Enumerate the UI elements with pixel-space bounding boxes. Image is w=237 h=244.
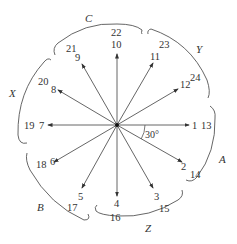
label-21: 21	[66, 43, 77, 54]
label-24: 24	[190, 72, 201, 83]
label-5: 5	[78, 191, 83, 202]
phasor-diagram: 30° A Z B X C Y 1 13 2 14 3 15 4 16 5 17…	[0, 0, 237, 244]
label-3: 3	[154, 191, 159, 202]
label-23: 23	[159, 39, 170, 50]
label-12: 12	[180, 79, 191, 90]
arrow-9	[82, 64, 117, 125]
group-label-a: A	[218, 153, 226, 165]
label-8: 8	[51, 84, 56, 95]
bracket-y	[148, 29, 209, 98]
group-label-y: Y	[196, 43, 204, 55]
label-2: 2	[181, 161, 186, 172]
group-label-z: Z	[145, 222, 152, 234]
label-16: 16	[110, 212, 121, 223]
arrow-12	[117, 89, 178, 125]
label-14: 14	[190, 169, 201, 180]
label-1: 1	[192, 120, 197, 131]
angle-label: 30°	[145, 129, 159, 140]
label-15: 15	[159, 203, 170, 214]
arrow-6	[54, 125, 117, 162]
label-4: 4	[114, 198, 120, 209]
arrow-5	[82, 125, 117, 188]
center-node	[115, 123, 119, 127]
group-label-b: B	[37, 201, 44, 213]
label-11: 11	[150, 51, 160, 62]
arrow-11	[117, 63, 153, 125]
label-13: 13	[201, 120, 212, 131]
label-17: 17	[67, 202, 78, 213]
arrow-8	[58, 90, 117, 125]
label-18: 18	[36, 159, 47, 170]
label-19: 19	[24, 120, 35, 131]
label-22: 22	[111, 27, 122, 38]
group-label-c: C	[85, 12, 93, 24]
label-7: 7	[39, 120, 44, 131]
label-6: 6	[50, 156, 55, 167]
label-20: 20	[38, 76, 49, 87]
label-10: 10	[111, 39, 122, 50]
diagram-canvas: 30° A Z B X C Y 1 13 2 14 3 15 4 16 5 17…	[0, 0, 237, 244]
group-label-x: X	[8, 87, 17, 99]
